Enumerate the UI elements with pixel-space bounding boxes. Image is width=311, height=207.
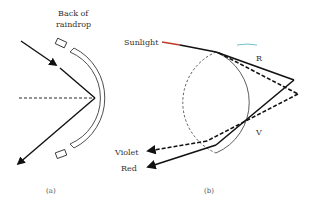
droplet-back-arc <box>216 52 249 153</box>
red-label: Red <box>121 164 137 173</box>
reflected-ray <box>18 98 95 164</box>
sunlight-label: Sunlight <box>124 38 159 47</box>
red-ray-inside-1 <box>216 52 294 80</box>
violet-label: Violet <box>114 148 139 157</box>
violet-ray-exit <box>148 141 207 151</box>
back-of-raindrop-label-line2: raindrop <box>56 20 91 29</box>
red-ray-exit <box>148 145 216 167</box>
raindrop-diagram: Back of raindrop (a) Sunlight <box>0 0 311 207</box>
caption-b: (b) <box>204 187 214 195</box>
label-R: R <box>256 54 263 63</box>
incoming-ray <box>21 41 56 65</box>
wall-fragment-top <box>55 38 67 48</box>
sunlight-ray <box>180 45 216 52</box>
panel-a: Back of raindrop (a) <box>18 9 105 195</box>
panel-b: Sunlight R V Violet Red (b) <box>114 38 298 195</box>
droplet-top-accent <box>237 44 257 45</box>
droplet-front-arc <box>183 52 216 153</box>
sunlight-ray-accent <box>162 42 180 45</box>
violet-ray-inside-2 <box>207 94 298 141</box>
wall-fragment-bottom <box>55 149 66 158</box>
red-ray-inside-2 <box>216 80 294 145</box>
label-V: V <box>255 128 262 137</box>
caption-a: (a) <box>46 187 56 195</box>
back-of-raindrop-label-line1: Back of <box>58 9 89 18</box>
